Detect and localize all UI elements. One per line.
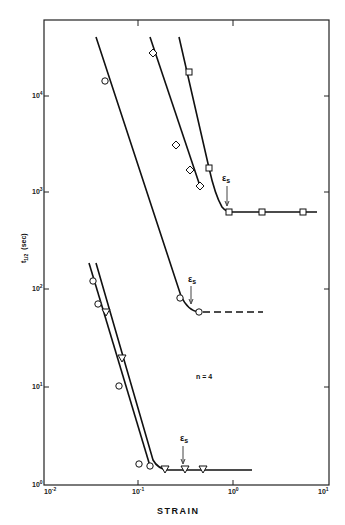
marker-circle: [102, 78, 108, 84]
x-tick-label: 100: [228, 486, 239, 495]
marker-square: [186, 69, 192, 75]
y-tick-label: 104: [32, 90, 43, 99]
series-lower-circles-line: [89, 263, 150, 466]
markers-circle: [90, 78, 202, 469]
y-tick-label: 101: [32, 381, 43, 390]
y-axis: [44, 96, 329, 387]
y-tick-label: 102: [32, 283, 43, 292]
x-tick-label: 10-2: [44, 486, 56, 495]
svg-text:εs: εs: [222, 173, 230, 184]
chart: 104 103 102 101 100 10-2 10-1 100 101 ST…: [0, 0, 345, 525]
markers-triangle: [102, 309, 207, 473]
marker-square: [259, 209, 265, 215]
svg-text:t1/2(sec): t1/2(sec): [20, 233, 29, 263]
y-tick-label: 103: [32, 186, 43, 195]
plot-frame: [44, 20, 329, 485]
curves: [89, 37, 317, 470]
annotation-eps-triangles: εs: [180, 433, 188, 464]
markers-diamond: [149, 49, 204, 190]
marker-circle: [196, 309, 202, 315]
series-upper-circles-line: [96, 37, 199, 312]
n-label: n = 4: [196, 373, 212, 380]
marker-circle: [147, 463, 153, 469]
annotation-eps-circles: εs: [188, 274, 196, 304]
marker-diamond: [186, 166, 194, 174]
x-tick-label: 10-1: [132, 486, 144, 495]
marker-diamond: [172, 141, 180, 149]
x-axis-title: STRAIN: [157, 506, 200, 516]
marker-square: [206, 165, 212, 171]
marker-square: [226, 209, 232, 215]
annotation-eps-squares: εs: [222, 173, 230, 206]
x-tick-label: 101: [318, 486, 329, 495]
marker-circle: [177, 295, 183, 301]
marker-square: [300, 209, 306, 215]
marker-circle: [95, 301, 101, 307]
svg-text:εs: εs: [188, 274, 196, 285]
marker-diamond: [196, 182, 204, 190]
marker-circle: [116, 383, 122, 389]
series-diamonds-line: [150, 37, 200, 186]
y-axis-title: t1/2(sec): [20, 233, 29, 263]
marker-circle: [90, 278, 96, 284]
marker-circle: [136, 461, 142, 467]
svg-text:εs: εs: [180, 433, 188, 444]
x-axis: [138, 20, 233, 485]
markers-square: [186, 69, 306, 215]
y-tick-label: 100: [32, 479, 43, 488]
